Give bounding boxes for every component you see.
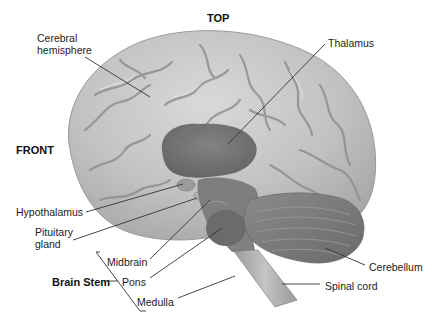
label-pituitary-line1: Pituitary (35, 226, 73, 238)
orientation-top-label: TOP (207, 12, 229, 24)
label-pons: Pons (122, 276, 146, 288)
label-cerebral-line1: Cerebral (37, 32, 92, 44)
label-pituitary-gland: Pituitary gland (35, 226, 73, 250)
label-cerebellum: Cerebellum (369, 261, 423, 273)
label-hypothalamus: Hypothalamus (16, 206, 83, 218)
label-spinal-cord: Spinal cord (325, 280, 378, 292)
label-pituitary-line2: gland (35, 238, 73, 250)
leader-medulla (178, 276, 235, 298)
label-midbrain: Midbrain (107, 256, 147, 268)
label-thalamus: Thalamus (328, 37, 374, 49)
orientation-front-label: FRONT (16, 144, 54, 156)
label-brain-stem: Brain Stem (52, 276, 110, 288)
label-medulla: Medulla (137, 296, 174, 308)
label-cerebral-line2: hemisphere (37, 44, 92, 56)
cerebellum-shape (244, 193, 364, 263)
brain-diagram: TOP FRONT Cerebral hemisphere Thalamus H… (0, 0, 437, 322)
label-cerebral-hemisphere: Cerebral hemisphere (37, 32, 92, 56)
